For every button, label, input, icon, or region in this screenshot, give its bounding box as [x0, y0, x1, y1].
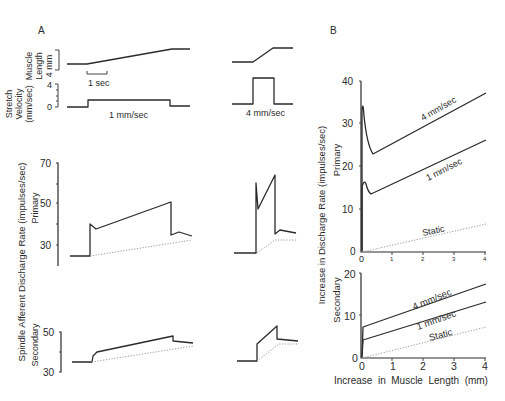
svg-text:Length: Length	[34, 52, 44, 80]
b-secondary-xtick-3: 3	[451, 360, 457, 372]
b-primary-ytick-40: 40	[342, 76, 354, 87]
b-secondary-xtick-4: 4	[482, 360, 488, 372]
svg-text:Stretch: Stretch	[4, 90, 14, 119]
b-primary-ytick-10: 10	[342, 204, 354, 215]
primary-tick-50: 50	[40, 198, 52, 209]
svg-text:Velocity: Velocity	[14, 88, 24, 120]
primary-trace-slow	[70, 202, 192, 256]
panel-a-label: A	[38, 25, 45, 36]
b-secondary-xtick-1: 1	[390, 360, 396, 372]
velocity-tick-4: 4	[47, 80, 52, 90]
velocity-axis	[55, 84, 58, 107]
secondary-static-slow	[92, 346, 193, 362]
velocity-label-fast: 4 mm/sec	[246, 108, 286, 118]
secondary-label-a: Secondary	[30, 323, 40, 367]
svg-text:(mm/sec): (mm/sec)	[24, 85, 34, 123]
primary-static-fast	[257, 240, 296, 253]
velocity-label-slow: 1 mm/sec	[109, 110, 149, 120]
primary-axes-b	[361, 81, 486, 252]
velocity-ylabel: Stretch Velocity (mm/sec)	[4, 85, 34, 123]
b-secondary-xtick-0: 0	[359, 360, 365, 372]
secondary-tick-50: 50	[43, 327, 55, 338]
panel-b-ylabel: Increase in Discharge Rate (impulses/sec…	[316, 126, 327, 304]
secondary-label-b: Secondary	[331, 277, 342, 323]
primary-axis-a	[56, 163, 58, 266]
svg-text:Spindle Afferent Discharge R: Spindle Afferent Discharge Rate (impulse…	[16, 163, 27, 362]
velocity-tick-0: 0	[47, 102, 52, 112]
b-secondary-label-fast: 4 mm/sec	[411, 286, 454, 312]
b-primary-xtick-1: 1	[390, 256, 394, 262]
b-primary-xtick-0: 0	[359, 254, 364, 264]
muscle-length-trace-fast	[232, 48, 293, 62]
b-secondary-label-slow: 1 mm/sec	[415, 307, 458, 332]
secondary-axes-b	[361, 273, 486, 358]
velocity-trace-fast	[232, 78, 293, 104]
time-scale-label: 1 sec	[88, 78, 110, 88]
primary-tick-30: 30	[40, 240, 52, 251]
b-secondary-ytick-10: 10	[344, 310, 356, 322]
b-primary-ytick-0: 0	[350, 246, 356, 257]
secondary-trace-slow	[72, 336, 193, 362]
secondary-static-fast	[257, 344, 298, 361]
primary-label-a: Primary	[30, 192, 40, 223]
b-primary-xtick-2: 2	[421, 256, 425, 262]
primary-static-slow	[90, 240, 192, 256]
b-primary-ytick-20: 20	[342, 161, 354, 172]
panel-b-label: B	[330, 25, 337, 36]
b-primary-xtick-4: 4	[483, 256, 487, 262]
length-scale-bracket	[55, 50, 59, 70]
b-primary-xtick-3: 3	[452, 256, 456, 262]
panel-a-ylabel: Spindle Afferent Discharge Rate (impulse…	[16, 163, 27, 362]
time-scale-bar	[87, 71, 107, 74]
b-primary-label-static: Static	[421, 223, 446, 238]
muscle-length-trace-slow	[67, 49, 190, 64]
primary-label-b: Primary	[331, 143, 342, 176]
svg-text:Muscle: Muscle	[24, 52, 34, 81]
b-secondary-ytick-20: 20	[344, 268, 356, 280]
svg-text:4 mm: 4 mm	[44, 55, 54, 78]
primary-trace-fast	[234, 175, 296, 253]
figure: A Muscle Length 4 mm 1 sec Stretch Veloc…	[0, 0, 505, 401]
secondary-trace-fast	[237, 326, 298, 361]
b-secondary-curve-static	[362, 327, 486, 358]
b-primary-ytick-30: 30	[342, 118, 354, 129]
b-secondary-ytick-0: 0	[352, 352, 358, 364]
b-secondary-label-static: Static	[428, 326, 454, 343]
primary-tick-70: 70	[40, 158, 52, 169]
muscle-length-ylabel: Muscle Length 4 mm	[24, 52, 54, 81]
b-xlabel: Increase in Muscle Length (mm)	[334, 375, 488, 386]
b-secondary-xtick-2: 2	[420, 360, 426, 372]
velocity-trace-slow	[67, 100, 190, 107]
secondary-tick-30: 30	[43, 367, 55, 378]
secondary-axes-b-ticks	[359, 273, 485, 361]
